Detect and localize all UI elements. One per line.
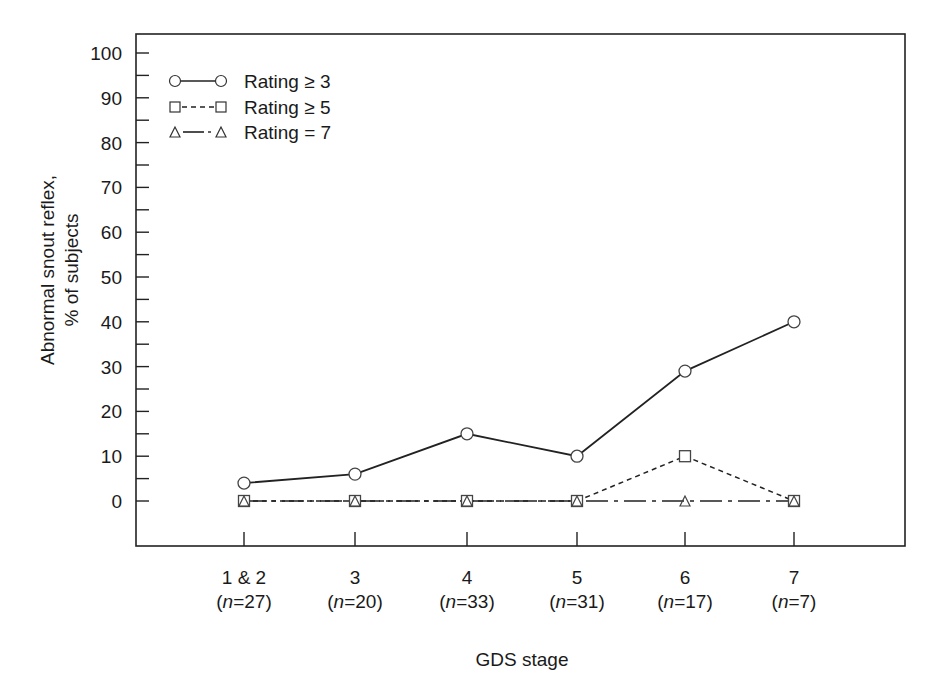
circle-marker-icon — [216, 76, 227, 87]
square-marker-icon — [216, 102, 226, 112]
x-tick-n-label: (n=7) — [772, 591, 817, 612]
x-tick-n-label: (n=17) — [657, 591, 712, 612]
legend: Rating ≥ 3 Rating ≥ 5 Rating = 7 — [170, 71, 332, 143]
y-tick-label: 100 — [90, 43, 122, 64]
series-line — [244, 322, 794, 483]
circle-marker-icon — [571, 450, 583, 462]
y-axis-ticks: 0102030405060708090100 — [90, 43, 149, 512]
y-tick-label: 0 — [111, 491, 122, 512]
triangle-marker-icon — [170, 127, 180, 137]
x-tick-n-label: (n=20) — [327, 591, 382, 612]
x-tick-n-label: (n=33) — [439, 591, 494, 612]
circle-marker-icon — [679, 365, 691, 377]
legend-item-rating-ge-5: Rating ≥ 5 — [170, 97, 330, 118]
legend-label: Rating ≥ 3 — [244, 71, 330, 92]
x-axis-title: GDS stage — [476, 649, 569, 670]
triangle-marker-icon — [216, 127, 226, 137]
x-tick-n-label: (n=31) — [549, 591, 604, 612]
x-tick-label: 3 — [350, 567, 361, 588]
y-tick-label: 60 — [101, 222, 122, 243]
x-tick-label: 7 — [789, 567, 800, 588]
legend-label: Rating = 7 — [244, 122, 331, 143]
square-marker-icon — [170, 102, 180, 112]
line-chart: 0102030405060708090100 1 & 2(n=27)3(n=20… — [0, 0, 927, 687]
y-axis-title: Abnormal snout reflex, % of subjects — [37, 175, 82, 365]
y-tick-label: 40 — [101, 312, 122, 333]
y-axis-title-line1: Abnormal snout reflex, — [37, 175, 58, 365]
x-axis-ticks: 1 & 2(n=27)3(n=20)4(n=33)5(n=31)6(n=17)7… — [216, 532, 816, 612]
legend-item-rating-ge-3: Rating ≥ 3 — [170, 71, 331, 92]
circle-marker-icon — [788, 316, 800, 328]
x-tick-label: 1 & 2 — [222, 567, 266, 588]
square-marker-icon — [680, 451, 691, 462]
y-axis-title-line2: % of subjects — [61, 214, 82, 327]
y-tick-label: 50 — [101, 267, 122, 288]
circle-marker-icon — [349, 468, 361, 480]
circle-marker-icon — [461, 428, 473, 440]
x-tick-label: 4 — [462, 567, 473, 588]
circle-marker-icon — [170, 76, 181, 87]
circle-marker-icon — [238, 477, 250, 489]
y-tick-label: 80 — [101, 133, 122, 154]
series-layer — [238, 316, 800, 507]
y-tick-label: 30 — [101, 357, 122, 378]
y-tick-label: 70 — [101, 177, 122, 198]
y-tick-label: 10 — [101, 446, 122, 467]
y-tick-label: 90 — [101, 88, 122, 109]
x-tick-label: 5 — [572, 567, 583, 588]
legend-label: Rating ≥ 5 — [244, 97, 330, 118]
y-tick-label: 20 — [101, 401, 122, 422]
x-tick-n-label: (n=27) — [216, 591, 271, 612]
legend-item-rating-eq-7: Rating = 7 — [170, 122, 331, 143]
series-line — [244, 456, 794, 501]
x-tick-label: 6 — [680, 567, 691, 588]
